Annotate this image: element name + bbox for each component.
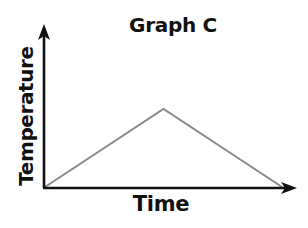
x-axis-label: Time [0, 192, 308, 216]
y-axis-label: Temperature [14, 46, 38, 185]
temperature-line [45, 109, 282, 187]
chart-title: Graph C [0, 13, 308, 37]
